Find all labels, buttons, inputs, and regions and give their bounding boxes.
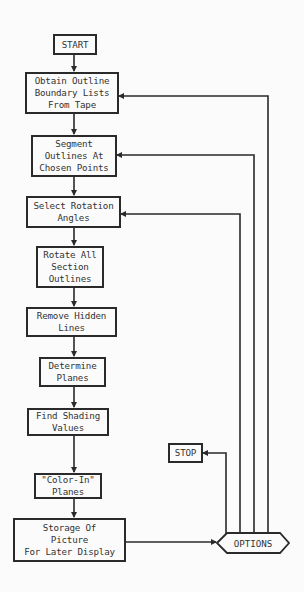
arrow-options-to-select [121,214,240,534]
arrow-options-to-stop [203,453,226,534]
rotate-outlines-node: Rotate All Section Outlines [36,246,104,288]
rotate-outlines-label: Rotate All Section Outlines [43,249,96,285]
select-rotation-label: Select Rotation Angles [34,200,114,224]
determine-planes-node: Determine Planes [39,357,106,387]
options-label: OPTIONS [222,533,284,553]
stop-label: STOP [175,447,196,459]
storage-label: Storage Of Picture For Later Display [24,522,115,558]
arrow-options-to-obtain [119,96,268,534]
find-shading-label: Find Shading Values [36,410,100,434]
obtain-outline-label: Obtain Outline Boundary Lists From Tape [35,75,110,111]
arrow-options-to-segment [117,155,254,534]
segment-outlines-node: Segment Outlines At Chosen Points [31,135,117,177]
segment-outlines-label: Segment Outlines At Chosen Points [39,138,108,174]
color-in-node: "Color-In" Planes [34,473,102,499]
select-rotation-node: Select Rotation Angles [26,196,121,228]
start-node: START [53,34,97,55]
remove-hidden-label: Remove Hidden Lines [37,310,106,334]
determine-planes-label: Determine Planes [49,360,97,384]
find-shading-node: Find Shading Values [27,408,109,436]
color-in-label: "Color-In" Planes [41,474,94,498]
stop-node: STOP [168,443,203,463]
obtain-outline-node: Obtain Outline Boundary Lists From Tape [25,72,119,114]
storage-node: Storage Of Picture For Later Display [13,518,126,562]
remove-hidden-node: Remove Hidden Lines [26,307,117,337]
start-label: START [62,39,89,51]
